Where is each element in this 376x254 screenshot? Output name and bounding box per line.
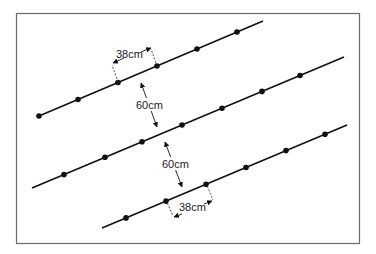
row-spacing-upper-dimension: 60cm [134, 83, 164, 127]
plant-dot [283, 148, 289, 154]
planting-diagram: 38cm 60cm 60cm 38cm [0, 0, 376, 254]
plant-dot [75, 97, 81, 103]
plant-dot [234, 29, 240, 35]
plant-dot [163, 198, 169, 204]
plant-spacing-top-label: 38cm [116, 48, 143, 60]
plant-dot [115, 80, 121, 86]
plant-dot [61, 172, 67, 178]
plant-dot [36, 113, 42, 119]
plant-spacing-bottom-label: 38cm [179, 201, 206, 213]
plant-dot [259, 89, 265, 95]
plant-spacing-bottom-dimension: 38cm [166, 183, 213, 217]
plant-dot [203, 182, 209, 188]
plant-dot [123, 215, 129, 221]
row-spacing-upper-label: 60cm [136, 99, 163, 111]
plant-dot [243, 165, 249, 171]
plant-dot [179, 122, 185, 128]
row-spacing-lower-dimension: 60cm [160, 142, 190, 187]
row-spacing-lower-label: 60cm [162, 158, 189, 170]
plant-dot [194, 46, 200, 52]
plant-dot [322, 131, 328, 137]
plant-dot [297, 73, 303, 79]
plant-dot [139, 139, 145, 145]
row-line [102, 125, 347, 228]
plant-dot [102, 155, 108, 161]
plant-dot [219, 105, 225, 111]
plant-spacing-top-dimension: 38cm [112, 48, 157, 82]
row-bottom [102, 125, 347, 228]
plant-rows [32, 21, 347, 228]
